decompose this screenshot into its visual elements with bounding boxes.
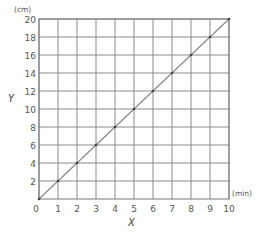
data-point xyxy=(114,126,117,129)
origin-label: 0 xyxy=(33,204,39,214)
x-tick-label: 4 xyxy=(112,204,118,214)
x-tick-label: 7 xyxy=(169,204,175,214)
y-tick-label: 2 xyxy=(30,177,36,187)
x-tick-label: 2 xyxy=(74,204,80,214)
data-point xyxy=(38,198,41,201)
x-tick-label: 3 xyxy=(93,204,99,214)
y-tick-label: 20 xyxy=(25,15,37,25)
data-point xyxy=(171,72,174,75)
data-point xyxy=(152,90,155,93)
x-tick-label: 8 xyxy=(188,204,194,214)
y-tick-label: 18 xyxy=(25,33,37,43)
data-point xyxy=(76,162,79,165)
line-chart: 123456789100 2468101214161820 (cm) (min)… xyxy=(0,0,257,234)
y-axis-label: Y xyxy=(8,93,15,104)
data-point xyxy=(133,108,136,111)
x-unit-label: (min) xyxy=(232,189,252,198)
x-axis-ticks: 123456789100 xyxy=(33,204,235,214)
y-axis-ticks: 2468101214161820 xyxy=(25,15,37,187)
y-tick-label: 6 xyxy=(30,141,36,151)
data-point xyxy=(209,36,212,39)
y-tick-label: 8 xyxy=(30,123,36,133)
data-point xyxy=(95,144,98,147)
y-tick-label: 14 xyxy=(25,69,37,79)
y-unit-label: (cm) xyxy=(14,5,31,14)
x-tick-label: 6 xyxy=(150,204,156,214)
data-point xyxy=(57,180,60,183)
y-tick-label: 16 xyxy=(25,51,37,61)
data-point xyxy=(228,18,231,21)
x-tick-label: 9 xyxy=(207,204,213,214)
x-axis-label: X xyxy=(127,217,136,228)
data-point xyxy=(190,54,193,57)
y-tick-label: 12 xyxy=(25,87,36,97)
x-tick-label: 5 xyxy=(131,204,137,214)
x-tick-label: 1 xyxy=(55,204,61,214)
y-tick-label: 10 xyxy=(25,105,37,115)
x-tick-label: 10 xyxy=(223,204,235,214)
y-tick-label: 4 xyxy=(30,159,36,169)
